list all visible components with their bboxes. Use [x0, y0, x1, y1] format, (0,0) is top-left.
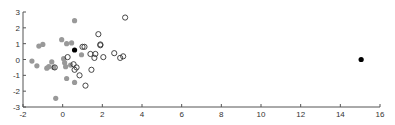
gray-filled-point [49, 59, 54, 64]
x-tick-label: 14 [336, 110, 345, 119]
x-tick-label: 8 [219, 110, 224, 119]
gray-filled-point [72, 80, 77, 85]
open-circle-point [83, 83, 88, 88]
black-filled-point [72, 47, 77, 52]
gray-filled-point [59, 37, 64, 42]
x-tick-label: -2 [19, 110, 27, 119]
open-circle-point [96, 32, 101, 37]
x-tick-label: 4 [140, 110, 145, 119]
gray-filled-point [46, 64, 51, 69]
black-filled-point [359, 57, 364, 62]
gray-filled-point [29, 58, 34, 63]
y-tick-label: 3 [16, 8, 21, 17]
y-tick-label: -3 [13, 103, 21, 112]
scatter-chart: -20246810121416-3-2-10123 [0, 0, 395, 125]
data-points [29, 15, 363, 101]
open-circle-point [77, 73, 82, 78]
x-tick-label: 6 [179, 110, 184, 119]
x-tick-label: 10 [257, 110, 266, 119]
gray-filled-point [53, 96, 58, 101]
y-tick-label: -1 [13, 71, 21, 80]
open-circle-point [101, 55, 106, 60]
x-tick-label: 12 [296, 110, 305, 119]
gray-filled-point [40, 42, 45, 47]
x-tick-label: 16 [376, 110, 385, 119]
y-tick-label: 2 [16, 24, 21, 33]
gray-filled-point [64, 41, 69, 46]
x-tick-label: 2 [100, 110, 105, 119]
open-circle-point [112, 51, 117, 56]
gray-filled-point [64, 76, 69, 81]
gray-filled-point [34, 63, 39, 68]
open-circle-point [65, 55, 70, 60]
gray-filled-point [69, 40, 74, 45]
x-tick-label: 0 [60, 110, 65, 119]
y-tick-label: 1 [16, 40, 21, 49]
gray-filled-point [72, 18, 77, 23]
open-circle-point [123, 15, 128, 20]
y-tick-label: 0 [16, 56, 21, 65]
y-tick-label: -2 [13, 87, 21, 96]
open-circle-point [89, 67, 94, 72]
gray-filled-point [63, 64, 68, 69]
gray-filled-point [79, 52, 84, 57]
